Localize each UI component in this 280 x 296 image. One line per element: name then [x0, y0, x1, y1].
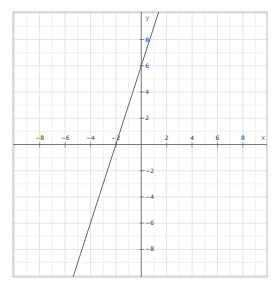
background	[0, 0, 280, 296]
y-tick-label: 4	[145, 88, 149, 95]
y-axis-label: y	[145, 14, 149, 22]
graph-canvas: −8−6−4−224688642−2−4−6−8 x y	[0, 0, 280, 296]
x-axis-label: x	[261, 134, 265, 142]
x-tick-label: −4	[86, 134, 95, 141]
x-tick-label: 8	[241, 134, 245, 141]
y-tick-label: −2	[145, 167, 154, 174]
y-tick-label: −4	[145, 193, 154, 200]
y-tick-label: 6	[145, 62, 149, 69]
y-tick-label: −8	[145, 245, 154, 252]
y-tick-label: 2	[145, 114, 149, 121]
y-tick-label: −6	[145, 219, 154, 226]
x-tick-label: 4	[190, 134, 194, 141]
x-tick-label: 2	[165, 134, 169, 141]
x-tick-label: −8	[35, 134, 44, 141]
x-tick-label: 6	[216, 134, 220, 141]
x-tick-label: −6	[61, 134, 70, 141]
